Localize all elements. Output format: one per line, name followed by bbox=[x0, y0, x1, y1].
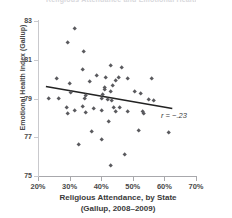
correlation-annotation: r = −.23 bbox=[161, 111, 187, 120]
x-tick bbox=[164, 177, 165, 181]
y-tick-label: 75 bbox=[4, 172, 32, 180]
x-tick bbox=[196, 177, 197, 181]
x-tick-label: 40% bbox=[86, 182, 116, 191]
x-tick bbox=[38, 177, 39, 181]
x-tick-label: 20% bbox=[23, 182, 53, 191]
x-tick bbox=[70, 177, 71, 181]
x-tick-label: 60% bbox=[149, 182, 179, 191]
y-axis-title: Emotional Health Index (Gallup) bbox=[19, 8, 26, 148]
x-axis-title-line1: Religious Attendance, by State bbox=[20, 192, 216, 203]
x-tick bbox=[101, 177, 102, 181]
x-axis-title: Religious Attendance, by State (Gallup, … bbox=[20, 192, 216, 214]
scatter-chart: Religious Attendance and Emotional Healt… bbox=[0, 0, 232, 218]
trend-line bbox=[38, 21, 196, 176]
x-tick-label: 70% bbox=[181, 182, 211, 191]
x-axis-title-line2: (Gallup, 2008–2009) bbox=[20, 203, 216, 214]
chart-title: Religious Attendance and Emotional Healt… bbox=[46, 0, 196, 4]
x-axis-line bbox=[38, 176, 197, 177]
x-tick-label: 50% bbox=[118, 182, 148, 191]
data-point bbox=[99, 137, 104, 142]
plot-area bbox=[38, 21, 196, 176]
x-tick bbox=[133, 177, 134, 181]
x-tick-label: 30% bbox=[55, 182, 85, 191]
